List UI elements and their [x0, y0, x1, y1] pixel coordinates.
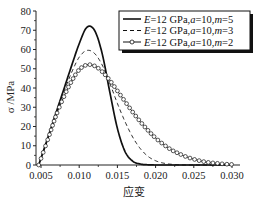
circle-marker: [41, 151, 45, 155]
circle-marker: [64, 90, 68, 94]
y-tick-label: 40: [21, 83, 32, 94]
circle-marker: [125, 102, 129, 106]
circle-marker: [167, 147, 171, 151]
circle-marker: [122, 97, 126, 101]
circle-marker: [171, 149, 175, 153]
circle-marker: [62, 95, 66, 99]
circle-marker: [143, 125, 147, 129]
circle-marker: [37, 163, 41, 167]
circle-marker: [152, 135, 156, 139]
y-tick-label: 20: [21, 121, 32, 132]
circle-marker: [55, 111, 59, 115]
circle-marker: [220, 162, 224, 166]
curve-dashed: [39, 50, 232, 165]
circle-marker: [83, 63, 87, 67]
circle-marker: [93, 64, 97, 68]
circle-marker: [188, 156, 192, 160]
circle-marker: [134, 114, 138, 118]
circle-marker: [67, 85, 71, 89]
y-tick-label: 70: [21, 25, 32, 36]
circle-marker: [179, 153, 183, 157]
y-tick-label: 80: [21, 6, 32, 17]
circle-marker: [149, 132, 153, 136]
stress-strain-chart: 010203040506070800.0050.0100.0150.0200.0…: [0, 0, 266, 201]
circle-marker: [156, 138, 160, 142]
circle-marker: [69, 81, 73, 85]
y-axis-label: σ /MPa: [4, 81, 16, 114]
circle-marker: [146, 128, 150, 132]
circle-marker: [193, 158, 197, 162]
circle-marker: [71, 77, 75, 81]
circle-marker: [106, 76, 110, 80]
circle-marker: [140, 122, 144, 126]
x-tick-label: 0.025: [182, 170, 206, 181]
circle-marker: [80, 66, 84, 70]
circle-marker: [96, 66, 100, 70]
circle-marker: [216, 161, 220, 165]
circle-marker: [128, 106, 132, 110]
circle-marker: [119, 93, 123, 97]
circle-marker: [44, 144, 48, 148]
circle-marker: [48, 133, 52, 137]
circle-marker: [100, 70, 104, 74]
circle-marker: [57, 105, 61, 109]
circle-marker: [103, 73, 107, 77]
x-tick-label: 0.015: [106, 170, 130, 181]
circle-marker: [73, 73, 77, 77]
circle-marker: [46, 138, 50, 142]
x-axis-label: 应变: [123, 185, 145, 198]
circle-marker-icon: [130, 40, 134, 44]
circle-marker: [51, 124, 55, 128]
circle-marker: [116, 89, 120, 93]
circle-marker: [131, 110, 135, 114]
y-tick-label: 50: [21, 63, 32, 74]
y-tick-label: 60: [21, 44, 32, 55]
legend: E=12 GPa,a=10,m=5 E=12 GPa,a=10,m=3 E=12…: [119, 11, 253, 53]
y-tick-label: 0: [26, 160, 31, 171]
x-tick-label: 0.020: [144, 170, 168, 181]
circle-marker: [88, 63, 92, 67]
y-tick-label: 10: [21, 140, 32, 151]
circle-marker: [49, 128, 53, 132]
circle-marker: [183, 155, 187, 159]
legend-shadow-side: [250, 14, 253, 53]
svg-text:E=12 GPa,a=10,m=2: E=12 GPa,a=10,m=2: [143, 37, 233, 48]
circle-marker: [160, 141, 164, 145]
circle-marker: [54, 115, 58, 119]
circle-marker: [197, 159, 201, 163]
circle-marker: [175, 151, 179, 155]
svg-text:E=12 GPa,a=10,m=3: E=12 GPa,a=10,m=3: [143, 25, 233, 36]
x-tick-label: 0.030: [220, 170, 244, 181]
circle-marker: [112, 85, 116, 89]
circle-marker: [206, 160, 210, 164]
circle-marker: [211, 161, 215, 165]
circle-marker: [77, 69, 81, 73]
circle-marker: [52, 119, 56, 123]
circle-marker: [39, 157, 43, 161]
circle-marker: [230, 163, 234, 167]
legend-shadow: [122, 50, 253, 53]
circle-marker: [225, 162, 229, 166]
circle-marker: [109, 80, 113, 84]
circle-marker: [202, 160, 206, 164]
circle-marker: [60, 100, 64, 104]
circle-marker: [137, 118, 141, 122]
x-tick-label: 0.005: [29, 170, 53, 181]
x-tick-label: 0.010: [67, 170, 91, 181]
svg-text:E=12 GPa,a=10,m=5: E=12 GPa,a=10,m=5: [143, 14, 233, 25]
y-tick-label: 30: [21, 102, 32, 113]
circle-marker: [164, 144, 168, 148]
